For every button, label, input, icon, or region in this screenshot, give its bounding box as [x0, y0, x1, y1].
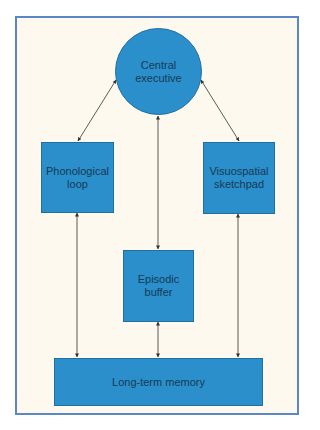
node-visuospatial-sketchpad: Visuospatial sketchpad — [203, 142, 275, 214]
node-label-line: executive — [135, 72, 181, 85]
node-episodic-buffer: Episodic buffer — [123, 250, 194, 322]
node-label-line: Phonological — [46, 165, 109, 178]
edge-central-phono — [78, 80, 116, 141]
node-label-line: Episodic — [138, 273, 180, 286]
edge-central-visuo — [201, 80, 239, 141]
node-label-line: Visuospatial — [209, 165, 268, 178]
node-label-line: loop — [46, 178, 109, 191]
node-long-term-memory: Long-term memory — [54, 358, 263, 406]
node-phonological-loop: Phonological loop — [41, 142, 114, 213]
node-label-line: buffer — [138, 286, 180, 299]
node-label-line: Central — [135, 59, 181, 72]
node-label-line: sketchpad — [209, 178, 268, 191]
node-label-line: Long-term memory — [112, 376, 205, 389]
node-central-executive: Central executive — [115, 28, 202, 115]
